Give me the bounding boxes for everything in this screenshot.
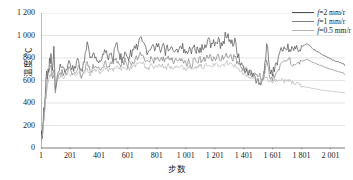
x-tick-label: 401 [84,152,114,160]
x-tick-label: 1 001 [171,152,201,160]
x-axis-title: 步数 [0,162,353,174]
x-tick-label: 801 [142,152,172,160]
chart-figure: 温度/℃ 步数 1 2001 0008006004002000 12014016… [0,0,353,180]
legend-item[interactable]: f=1 mm/r [292,17,351,26]
x-tick-label: 1 201 [200,152,230,160]
legend-label: f=0.5 mm/r [317,26,351,35]
series-line [41,52,345,141]
legend-line-swatch [292,12,314,13]
legend-item[interactable]: f=0.5 mm/r [292,26,351,35]
legend-label: f=2 mm/r [317,8,345,17]
y-tick-label: 200 [5,122,35,130]
x-tick-label: 2 001 [316,152,346,160]
x-tick-label: 1 801 [287,152,317,160]
legend-line-swatch [292,21,314,22]
y-tick-label: 1 200 [5,9,35,17]
x-tick-label: 1 401 [229,152,259,160]
y-tick-label: 800 [5,54,35,62]
legend-item[interactable]: f=2 mm/r [292,8,351,17]
x-tick-label: 201 [55,152,85,160]
chart-legend: f=2 mm/rf=1 mm/rf=0.5 mm/r [292,8,351,35]
x-tick-label: 601 [113,152,143,160]
y-tick-label: 400 [5,99,35,107]
y-tick-label: 1 000 [5,32,35,40]
legend-line-swatch [292,30,314,31]
x-tick-label: 1 [26,152,56,160]
y-tick-label: 0 [5,144,35,152]
series-line [41,61,345,147]
y-tick-label: 600 [5,77,35,85]
x-tick-label: 1 601 [258,152,288,160]
legend-label: f=1 mm/r [317,17,345,26]
